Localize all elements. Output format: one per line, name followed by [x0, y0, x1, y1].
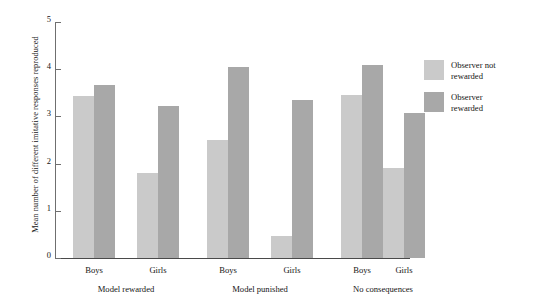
legend-item: Observer notrewarded: [424, 60, 530, 81]
legend-label-line2: rewarded: [451, 71, 496, 82]
y-axis-title: Mean number of different imitative respo…: [31, 15, 40, 255]
y-tick-mark: [55, 116, 61, 117]
legend: Observer notrewardedObserverrewarded: [424, 60, 530, 124]
x-sub-label-girls: Girls: [374, 265, 434, 275]
y-tick-1: 1: [55, 211, 61, 212]
y-tick-5: 5: [55, 22, 61, 23]
bar: [137, 173, 158, 258]
x-axis-line: [55, 258, 410, 259]
legend-label-line1: Observer not: [451, 60, 496, 71]
legend-swatch: [424, 60, 444, 80]
bar: [94, 85, 115, 258]
y-tick-mark: [55, 69, 61, 70]
bar: [383, 168, 404, 258]
y-tick-2: 2: [55, 164, 61, 165]
bar: [158, 106, 179, 258]
legend-swatch: [424, 92, 444, 112]
x-group-label-model-punished: Model punished: [200, 284, 320, 294]
y-tick-mark: [55, 164, 61, 165]
x-group-label-no-consequences: No consequences: [323, 284, 443, 294]
legend-item: Observerrewarded: [424, 92, 530, 113]
x-sub-label-boys: Boys: [198, 265, 258, 275]
bar: [341, 95, 362, 258]
x-sub-label-girls: Girls: [262, 265, 322, 275]
y-axis-line: [55, 22, 56, 258]
y-tick-label: 1: [47, 204, 51, 213]
bar: [404, 113, 425, 258]
y-tick-4: 4: [55, 69, 61, 70]
legend-label: Observerrewarded: [451, 92, 483, 113]
x-sub-label-boys: Boys: [64, 265, 124, 275]
bar: [228, 67, 249, 258]
y-tick-label: 4: [47, 62, 51, 71]
bar-chart-figure: Mean number of different imitative respo…: [0, 0, 535, 307]
legend-label: Observer notrewarded: [451, 60, 496, 81]
y-tick-mark: [55, 211, 61, 212]
x-sub-label-girls: Girls: [128, 265, 188, 275]
x-group-label-model-rewarded: Model rewarded: [66, 284, 186, 294]
legend-label-line1: Observer: [451, 92, 483, 103]
bar: [271, 236, 292, 258]
y-tick-label: 3: [47, 109, 51, 118]
plot-area: 012345 BoysGirlsBoysGirlsBoysGirlsModel …: [55, 22, 410, 258]
bar: [292, 100, 313, 258]
y-tick-label: 5: [47, 15, 51, 24]
y-tick-mark: [55, 22, 61, 23]
y-tick-label: 2: [47, 157, 51, 166]
bar: [73, 96, 94, 258]
y-tick-mark: [55, 258, 61, 259]
y-tick-3: 3: [55, 116, 61, 117]
bar: [362, 65, 383, 258]
bar: [207, 140, 228, 258]
y-tick-0: 0: [55, 258, 61, 259]
legend-label-line2: rewarded: [451, 103, 483, 114]
y-tick-label: 0: [47, 251, 51, 260]
